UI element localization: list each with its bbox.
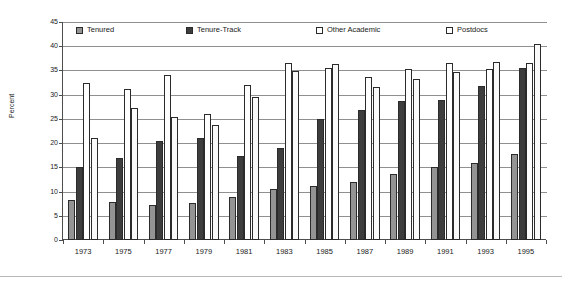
x-tick-label: 1981 (236, 247, 253, 256)
x-axis-tick-mark (546, 240, 547, 244)
bar-group (264, 22, 304, 240)
x-tick-label: 1977 (155, 247, 172, 256)
x-axis-tick-mark (466, 240, 467, 244)
x-tick-label: 1991 (437, 247, 454, 256)
bar (405, 69, 412, 240)
y-tick-label: 40 (50, 42, 58, 49)
y-tick-label: 20 (50, 139, 58, 146)
bar (292, 71, 299, 240)
bar (197, 138, 204, 240)
bar (373, 87, 380, 240)
bar (493, 62, 500, 240)
bar (204, 114, 211, 240)
legend-item[interactable]: Postdocs (446, 26, 488, 34)
bar (438, 100, 445, 240)
x-axis-tick-mark (425, 240, 426, 244)
bar (519, 68, 526, 240)
legend-item-label: Other Academic (327, 26, 380, 34)
bar (413, 79, 420, 240)
bar-group (345, 22, 385, 240)
bar (76, 167, 83, 240)
x-tick-label: 1987 (357, 247, 374, 256)
bar (270, 189, 277, 240)
bar (229, 197, 236, 240)
legend-item-label: Tenured (87, 26, 114, 34)
x-axis-tick-mark (144, 240, 145, 244)
bar (109, 202, 116, 240)
x-axis-tick-mark (385, 240, 386, 244)
bar (358, 110, 365, 240)
bar (332, 64, 339, 240)
bar (149, 205, 156, 240)
legend-item[interactable]: Tenure-Track (186, 26, 241, 34)
x-axis-tick-mark (103, 240, 104, 244)
bar-group (305, 22, 345, 240)
bar (244, 85, 251, 240)
chart-legend: TenuredTenure-TrackOther AcademicPostdoc… (62, 26, 546, 40)
y-axis-title: Percent (8, 94, 15, 118)
bar (124, 89, 131, 240)
y-tick-label: 5 (54, 212, 58, 219)
bar (116, 158, 123, 240)
bar-group (63, 22, 103, 240)
bar (91, 138, 98, 240)
bar (534, 44, 541, 240)
grouped-bar-chart: Percent 051015202530354045 1973197519771… (0, 0, 562, 284)
bar (325, 68, 332, 240)
bar (431, 167, 438, 240)
bar (446, 63, 453, 240)
x-tick-label: 1973 (75, 247, 92, 256)
bar (471, 163, 478, 240)
y-tick-label: 10 (50, 188, 58, 195)
x-axis-tick-mark (224, 240, 225, 244)
bar (317, 119, 324, 240)
bar (486, 69, 493, 240)
bar (350, 182, 357, 240)
y-tick-label: 0 (54, 236, 58, 243)
bar (171, 117, 178, 240)
bar (131, 108, 138, 240)
bar (83, 83, 90, 240)
bar (68, 200, 75, 240)
bar (285, 63, 292, 240)
legend-item-label: Tenure-Track (197, 26, 241, 34)
y-tick-label: 25 (50, 115, 58, 122)
legend-item[interactable]: Other Academic (316, 26, 380, 34)
bar (156, 141, 163, 240)
bar-group (103, 22, 143, 240)
y-tick-label: 35 (50, 66, 58, 73)
legend-item-label: Postdocs (457, 26, 488, 34)
y-tick-label: 30 (50, 91, 58, 98)
x-tick-label: 1995 (518, 247, 535, 256)
x-tick-label: 1979 (196, 247, 213, 256)
bar (526, 63, 533, 240)
x-tick-label: 1985 (316, 247, 333, 256)
bar-group (224, 22, 264, 240)
x-axis-tick-mark (506, 240, 507, 244)
x-axis-tick-mark (184, 240, 185, 244)
x-tick-label: 1975 (115, 247, 132, 256)
y-tick-label: 45 (50, 18, 58, 25)
x-axis-tick-mark (264, 240, 265, 244)
figure-bottom-rule (0, 276, 562, 277)
y-axis-tick-labels: 051015202530354045 (38, 0, 58, 284)
bar (365, 77, 372, 240)
x-axis-tick-labels: 1973197519771979198119831985198719891991… (63, 247, 546, 259)
bar (189, 203, 196, 240)
bar (398, 101, 405, 240)
x-axis-tick-mark (345, 240, 346, 244)
bar (164, 75, 171, 240)
legend-item[interactable]: Tenured (76, 26, 114, 34)
bar-group (506, 22, 546, 240)
bar (390, 174, 397, 240)
bar (511, 154, 518, 240)
legend-swatch-tenure-track-icon (186, 27, 193, 34)
bar (252, 97, 259, 240)
bar-group (425, 22, 465, 240)
legend-swatch-tenured-icon (76, 27, 83, 34)
x-tick-label: 1983 (276, 247, 293, 256)
bar (478, 86, 485, 240)
bar (277, 148, 284, 240)
bar-group (184, 22, 224, 240)
bar-group (385, 22, 425, 240)
